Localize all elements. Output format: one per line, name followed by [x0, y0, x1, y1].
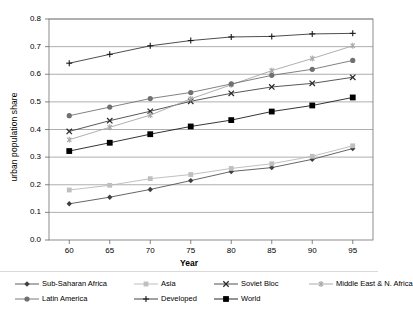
marker-square — [269, 161, 274, 166]
data-point-marker — [148, 176, 153, 181]
legend-label: Soviet Bloc — [241, 278, 279, 290]
data-point-marker — [310, 154, 315, 159]
marker-filled-square — [223, 296, 229, 302]
data-point-marker — [350, 95, 356, 101]
legend-marker-asterisk-icon — [308, 278, 334, 290]
marker-filled-square — [228, 117, 234, 123]
legend-marker-square-icon — [133, 278, 159, 290]
legend-item-latin-america[interactable]: Latin America — [14, 291, 87, 306]
data-point-marker — [144, 281, 149, 286]
x-axis-ticks — [69, 240, 353, 244]
data-point-marker — [188, 90, 193, 95]
data-point-marker — [66, 60, 72, 66]
data-point-marker — [350, 58, 355, 63]
marker-filled-square — [188, 124, 194, 130]
data-point-marker — [269, 161, 274, 166]
marker-circle — [229, 81, 234, 86]
data-point-marker — [107, 105, 112, 110]
marker-circle — [67, 113, 72, 118]
data-point-marker — [66, 148, 72, 154]
legend-row: Latin AmericaDevelopedWorld — [14, 291, 392, 306]
data-point-marker — [350, 30, 356, 36]
data-point-marker — [269, 33, 275, 39]
data-point-marker — [148, 112, 152, 118]
marker-square — [350, 143, 355, 148]
marker-diamond — [67, 201, 72, 206]
legend-marker-x-icon — [213, 278, 239, 290]
data-point-marker — [229, 81, 234, 86]
data-point-marker — [188, 178, 193, 183]
data-point-marker — [269, 73, 274, 78]
data-point-marker — [189, 96, 193, 102]
series-latin-america — [67, 58, 356, 118]
marker-diamond — [188, 178, 193, 183]
marker-filled-square — [269, 109, 275, 115]
data-point-marker — [147, 131, 153, 137]
data-point-marker — [147, 43, 153, 49]
data-point-marker — [310, 67, 315, 72]
data-point-marker — [148, 96, 153, 101]
legend-item-middle-east-n-africa[interactable]: Middle East & N. Africa — [308, 276, 413, 291]
marker-diamond — [148, 187, 153, 192]
data-point-marker — [309, 31, 315, 37]
marker-circle — [148, 96, 153, 101]
data-point-marker — [188, 172, 193, 177]
marker-circle — [350, 58, 355, 63]
legend-item-asia[interactable]: Asia — [133, 276, 176, 291]
data-point-marker — [107, 118, 112, 123]
legend-item-developed[interactable]: Developed — [133, 291, 197, 306]
series-world — [66, 95, 355, 154]
marker-circle — [24, 296, 29, 301]
legend-label: Latin America — [42, 293, 87, 305]
data-point-marker — [24, 281, 29, 286]
legend-label: World — [241, 293, 260, 305]
series-middle-east-n-africa — [67, 43, 355, 143]
data-point-marker — [310, 56, 314, 62]
data-point-marker — [351, 43, 355, 49]
marker-filled-square — [107, 140, 113, 146]
legend-divider — [0, 271, 378, 272]
data-point-marker — [67, 188, 72, 193]
legend-marker-diamond-icon — [14, 278, 40, 290]
data-point-marker — [107, 140, 113, 146]
legend-label: Middle East & N. Africa — [336, 278, 413, 290]
marker-square — [144, 281, 149, 286]
marker-filled-square — [350, 95, 356, 101]
marker-circle — [188, 90, 193, 95]
data-point-marker — [188, 38, 194, 44]
data-point-marker — [309, 103, 315, 109]
marker-square — [67, 188, 72, 193]
data-point-marker — [229, 166, 234, 171]
data-point-marker — [228, 117, 234, 123]
marker-filled-square — [309, 103, 315, 109]
gridlines — [49, 19, 373, 212]
data-point-marker — [67, 113, 72, 118]
legend-item-soviet-bloc[interactable]: Soviet Bloc — [213, 276, 279, 291]
data-point-marker — [148, 187, 153, 192]
data-point-marker — [107, 183, 112, 188]
marker-circle — [107, 105, 112, 110]
marker-filled-square — [66, 148, 72, 154]
legend-label: Sub-Saharan Africa — [42, 278, 107, 290]
legend-marker-filled-square-icon — [213, 293, 239, 305]
marker-square — [107, 183, 112, 188]
legend-label: Developed — [161, 293, 197, 305]
legend-item-sub-saharan-africa[interactable]: Sub-Saharan Africa — [14, 276, 107, 291]
marker-diamond — [107, 194, 112, 199]
marker-filled-square — [147, 131, 153, 137]
data-point-marker — [24, 296, 29, 301]
legend-label: Asia — [161, 278, 176, 290]
data-point-marker — [223, 296, 229, 302]
data-point-marker — [350, 143, 355, 148]
data-point-marker — [188, 124, 194, 130]
legend-row: Sub-Saharan AfricaAsiaSoviet BlocMiddle … — [14, 276, 392, 291]
marker-diamond — [24, 281, 29, 286]
marker-circle — [310, 67, 315, 72]
data-point-marker — [108, 124, 112, 130]
legend-marker-circle-icon — [14, 293, 40, 305]
data-point-marker — [269, 109, 275, 115]
legend-item-world[interactable]: World — [213, 291, 260, 306]
data-point-marker — [143, 296, 149, 302]
